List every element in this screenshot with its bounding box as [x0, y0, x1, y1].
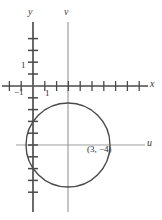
tick-label-y-one: 1 [21, 61, 26, 70]
coordinate-plane-figure: y v x u 1 −1 1 (3, −4) [0, 0, 162, 220]
tick-label-x-one: 1 [45, 89, 50, 98]
v-axis-label: v [64, 7, 68, 17]
circle-center-label: (3, −4) [87, 145, 112, 154]
tick-label-y-negative-one: −1 [14, 88, 24, 97]
xy-axes-group [2, 22, 148, 212]
y-axis-label: y [28, 7, 32, 17]
u-axis-label: u [147, 138, 152, 148]
x-axis-label: x [150, 79, 154, 89]
graph-canvas [0, 0, 162, 220]
